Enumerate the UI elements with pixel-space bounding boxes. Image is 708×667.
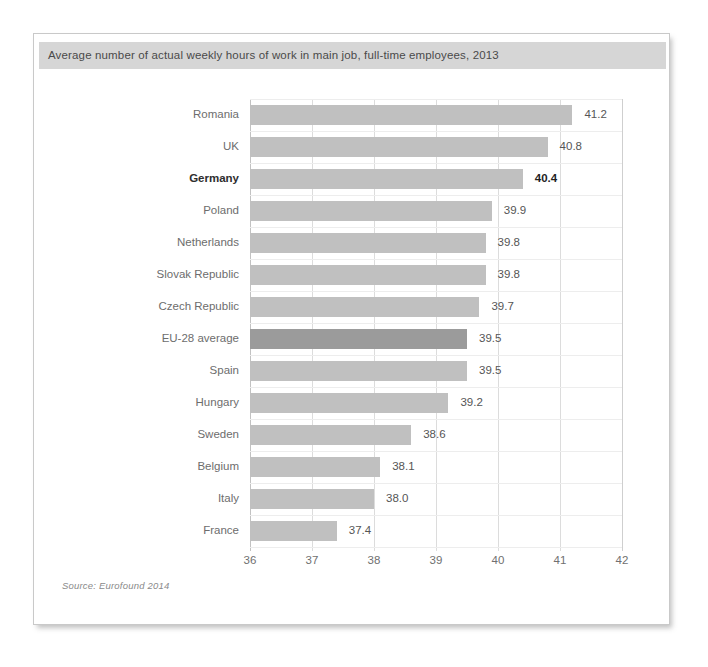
x-axis-tick-40: 40	[492, 554, 505, 566]
bar-row: Slovak Republic39.8	[250, 259, 622, 291]
bar-row: Hungary39.2	[250, 387, 622, 419]
category-label-spain: Spain	[210, 364, 239, 376]
page-title: Average number of actual weekly hours of…	[48, 49, 499, 61]
category-label-belgium: Belgium	[197, 460, 239, 472]
bar-netherlands	[250, 233, 486, 253]
category-label-sweden: Sweden	[197, 428, 239, 440]
bar-row: Romania41.2	[250, 99, 622, 131]
bar-slovak-republic	[250, 265, 486, 285]
bar-row: Germany40.4	[250, 163, 622, 195]
bar-hungary	[250, 393, 448, 413]
bar-row: Netherlands39.8	[250, 227, 622, 259]
category-label-eu-28-average: EU-28 average	[162, 332, 239, 344]
value-label-hungary: 39.2	[460, 396, 482, 408]
value-label-spain: 39.5	[479, 364, 501, 376]
bar-row: Belgium38.1	[250, 451, 622, 483]
bar-romania	[250, 105, 572, 125]
bar-row: France37.4	[250, 515, 622, 547]
bar-belgium	[250, 457, 380, 477]
value-label-romania: 41.2	[584, 108, 606, 120]
bar-row: Spain39.5	[250, 355, 622, 387]
bar-spain	[250, 361, 467, 381]
value-label-germany: 40.4	[535, 172, 557, 184]
category-label-germany: Germany	[189, 172, 239, 184]
bar-row: Sweden38.6	[250, 419, 622, 451]
bar-row: EU-28 average39.5	[250, 323, 622, 355]
bar-italy	[250, 489, 374, 509]
x-axis-tick-42: 42	[616, 554, 629, 566]
source-note: Source: Eurofound 2014	[62, 580, 169, 591]
bar-germany	[250, 169, 523, 189]
bar-row: Italy38.0	[250, 483, 622, 515]
gridline-horizontal	[250, 547, 622, 548]
bar-row: Poland39.9	[250, 195, 622, 227]
bar-poland	[250, 201, 492, 221]
category-label-poland: Poland	[203, 204, 239, 216]
x-axis-tick-36: 36	[244, 554, 257, 566]
plot-area: Romania41.2UK40.8Germany40.4Poland39.9Ne…	[250, 99, 622, 551]
bar-row: UK40.8	[250, 131, 622, 163]
bar-row: Czech Republic39.7	[250, 291, 622, 323]
value-label-sweden: 38.6	[423, 428, 445, 440]
chart-title-band: Average number of actual weekly hours of…	[39, 42, 666, 69]
category-label-france: France	[203, 524, 239, 536]
category-label-uk: UK	[223, 140, 239, 152]
category-label-italy: Italy	[218, 492, 239, 504]
value-label-slovak-republic: 39.8	[498, 268, 520, 280]
category-label-hungary: Hungary	[196, 396, 239, 408]
x-axis-tick-39: 39	[430, 554, 443, 566]
bar-uk	[250, 137, 548, 157]
category-label-czech-republic: Czech Republic	[158, 300, 239, 312]
value-label-eu-28-average: 39.5	[479, 332, 501, 344]
value-label-italy: 38.0	[386, 492, 408, 504]
x-axis-tick-labels: 36373839404142	[250, 554, 622, 574]
x-axis-tick-37: 37	[306, 554, 319, 566]
value-label-france: 37.4	[349, 524, 371, 536]
value-label-poland: 39.9	[504, 204, 526, 216]
x-axis-tick-41: 41	[554, 554, 567, 566]
gridline-vertical	[622, 99, 623, 551]
bar-eu-28-average	[250, 329, 467, 349]
x-axis-tick-38: 38	[368, 554, 381, 566]
category-label-slovak-republic: Slovak Republic	[157, 268, 239, 280]
value-label-czech-republic: 39.7	[491, 300, 513, 312]
bar-france	[250, 521, 337, 541]
chart-figure-frame: Average number of actual weekly hours of…	[33, 33, 670, 625]
value-label-uk: 40.8	[560, 140, 582, 152]
value-label-belgium: 38.1	[392, 460, 414, 472]
bar-czech-republic	[250, 297, 479, 317]
category-label-romania: Romania	[193, 108, 239, 120]
category-label-netherlands: Netherlands	[177, 236, 239, 248]
bar-sweden	[250, 425, 411, 445]
value-label-netherlands: 39.8	[498, 236, 520, 248]
